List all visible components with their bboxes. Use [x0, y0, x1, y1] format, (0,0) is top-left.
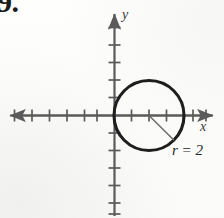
- radius-annotation-label: r = 2: [172, 142, 203, 158]
- y-axis-label: y: [120, 7, 129, 22]
- radius-segment: [149, 116, 174, 141]
- coordinate-graph: x y r = 2: [0, 0, 224, 218]
- x-axis-label: x: [199, 119, 207, 134]
- figure-page: 9.: [0, 0, 224, 218]
